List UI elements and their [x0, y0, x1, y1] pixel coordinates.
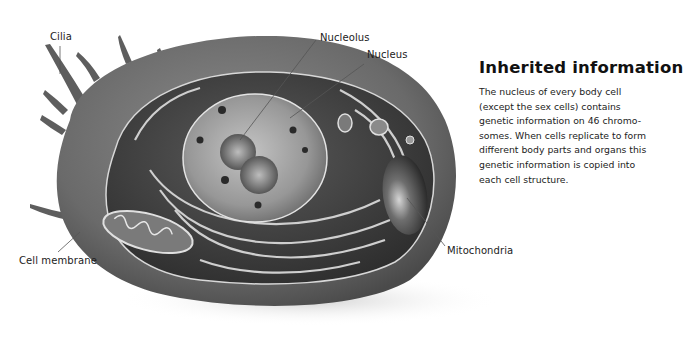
label-nucleus: Nucleus [367, 49, 408, 60]
label-mitochondria: Mitochondria [447, 245, 513, 256]
label-cell-membrane: Cell membrane [19, 255, 97, 266]
info-title: Inherited information [479, 58, 647, 77]
label-cilia: Cilia [50, 31, 72, 42]
label-nucleolus: Nucleolus [320, 32, 370, 43]
info-panel: Inherited information The nucleus of eve… [479, 58, 647, 187]
info-body: The nucleus of every body cell (except t… [479, 85, 647, 187]
nucleolus-b [240, 156, 278, 194]
